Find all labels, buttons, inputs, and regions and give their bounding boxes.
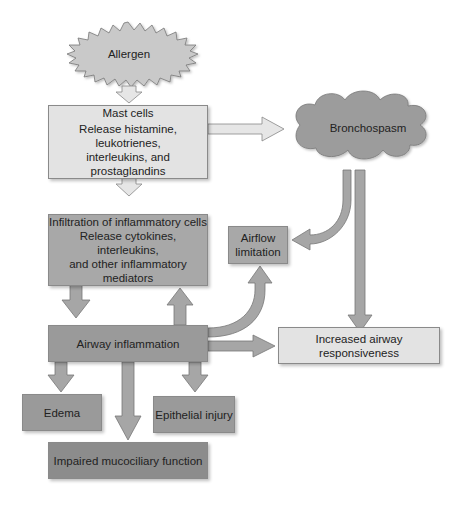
- arrow-mastcells-to-bronchospasm: [208, 117, 284, 141]
- arrow-bronchospasm-to-responsiveness: [348, 170, 372, 332]
- airway-inflammation-label: Airway inflammation: [77, 337, 180, 351]
- mast-cells-line1: Release histamine, leukotrienes,: [49, 122, 207, 150]
- node-allergen: Allergen: [88, 48, 170, 60]
- arrow-allergen-to-mastcells: [116, 86, 142, 103]
- infiltration-line2: and other inflammatory mediators: [49, 257, 207, 285]
- infiltration-line1: Release cytokines, interleukins,: [49, 229, 207, 257]
- mast-cells-title: Mast cells: [102, 106, 153, 120]
- arrow-inflammation-to-responsiveness: [208, 335, 275, 357]
- edema-label: Edema: [44, 406, 80, 420]
- arrow-inflammation-to-edema: [48, 362, 74, 392]
- node-edema: Edema: [22, 394, 102, 431]
- node-infiltration: Infiltration of inflammatory cells Relea…: [48, 214, 208, 286]
- arrow-inflammation-to-infiltration: [167, 288, 193, 325]
- arrow-mastcells-to-infiltration: [116, 178, 142, 196]
- node-bronchospasm: Bronchospasm: [318, 122, 418, 134]
- epithelial-injury-label: Epithelial injury: [155, 408, 232, 422]
- increased-responsiveness-label: Increased airway responsiveness: [279, 332, 439, 360]
- arrow-infiltration-to-inflammation: [62, 285, 90, 318]
- node-impaired-mucociliary: Impaired mucociliary function: [48, 442, 208, 479]
- node-increased-responsiveness: Increased airway responsiveness: [278, 327, 440, 364]
- arrow-bronchospasm-to-airflow: [292, 170, 351, 250]
- arrow-inflammation-to-airflow: [208, 266, 272, 337]
- node-mast-cells: Mast cells Release histamine, leukotrien…: [48, 105, 208, 179]
- infiltration-title: Infiltration of inflammatory cells: [49, 215, 207, 229]
- arrow-inflammation-to-mucociliary: [115, 362, 141, 440]
- node-airflow-limitation: Airflow limitation: [228, 226, 288, 264]
- mast-cells-line2: interleukins, and prostaglandins: [49, 150, 207, 178]
- impaired-mucociliary-label: Impaired mucociliary function: [54, 454, 203, 468]
- airflow-line2: limitation: [235, 245, 280, 259]
- arrow-inflammation-to-epithelial: [182, 362, 208, 392]
- node-epithelial-injury: Epithelial injury: [153, 396, 235, 433]
- asthma-pathophysiology-diagram: Allergen Mast cells Release histamine, l…: [0, 0, 460, 512]
- airflow-line1: Airflow: [241, 231, 276, 245]
- node-airway-inflammation: Airway inflammation: [48, 325, 208, 362]
